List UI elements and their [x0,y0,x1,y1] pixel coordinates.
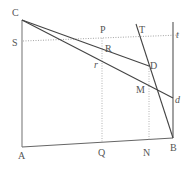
label-Q: Q [98,147,106,158]
label-N: N [143,147,150,158]
segment-CD [22,20,149,66]
label-t: t [176,29,179,40]
label-P: P [100,24,106,35]
geometry-diagram: C S A B P T t R D r M d Q N [0,0,190,173]
label-R: R [105,43,112,54]
label-B: B [170,142,177,153]
label-M: M [136,84,145,95]
label-A: A [18,150,26,161]
label-T: T [139,24,145,35]
label-C: C [12,7,19,18]
label-r: r [94,59,98,70]
label-S: S [12,37,18,48]
segment-AB [22,138,173,147]
dotted-S-t [23,35,180,41]
label-D: D [150,60,157,71]
label-d: d [175,94,181,105]
segment-TB [136,24,173,138]
